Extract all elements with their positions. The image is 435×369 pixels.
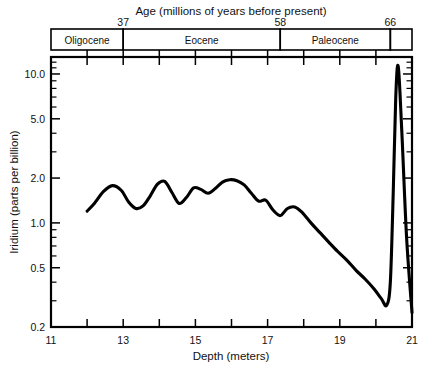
age-tick-label-66: 66 [384, 16, 396, 28]
x-tick-label-13: 13 [117, 334, 129, 346]
x-tick-label-19: 19 [334, 334, 346, 346]
age-tick-label-37: 37 [117, 16, 129, 28]
epoch-label-paleocene: Paleocene [312, 35, 360, 46]
y-tick-label-10.0: 10.0 [25, 68, 46, 80]
x-tick-label-15: 15 [190, 334, 202, 346]
y-tick-label-5.0: 5.0 [30, 113, 45, 125]
epoch-label-eocene: Eocene [185, 35, 219, 46]
x-tick-label-21: 21 [406, 334, 418, 346]
y-axis-title: Iridium (parts per billion) [8, 130, 20, 254]
epoch-label-oligocene: Oligocene [65, 35, 110, 46]
x-tick-label-17: 17 [262, 334, 274, 346]
iridium-depth-chart: Age (millions of years before present) 3… [0, 0, 435, 369]
y-tick-label-0.5: 0.5 [30, 262, 45, 274]
x-axis-title: Depth (meters) [193, 350, 270, 362]
age-tick-label-58: 58 [274, 16, 286, 28]
y-tick-label-1.0: 1.0 [30, 217, 45, 229]
y-tick-label-0.2: 0.2 [30, 321, 45, 333]
x-tick-label-11: 11 [46, 334, 57, 346]
y-tick-label-2.0: 2.0 [30, 172, 45, 184]
top-axis-title: Age (millions of years before present) [135, 5, 326, 17]
chart-canvas: Age (millions of years before present) 3… [0, 0, 435, 369]
